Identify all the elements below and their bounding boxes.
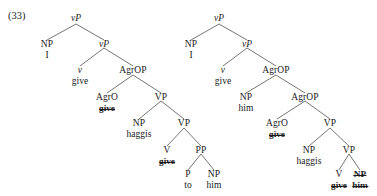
node-label-category: AgrOP (119, 66, 146, 76)
node-label-category: vP (99, 40, 109, 50)
node-t2-vp-root: vP (214, 14, 224, 24)
node-label-lexical-struck: give (331, 181, 347, 191)
node-label-lexical: him (239, 104, 254, 114)
node-label-lexical-struck: give (266, 130, 288, 140)
node-label-category: NP (297, 146, 322, 156)
node-t2-agrop-low: AgrOP (291, 93, 318, 103)
node-t2-np-him-spec: NP him (239, 93, 254, 114)
node-t1-p: P to (184, 170, 191, 191)
node-t1-agrop: AgrOP (119, 66, 146, 76)
node-label-category: NP (41, 40, 53, 50)
syntax-tree-figure: (33) vP NP I vP (0, 0, 377, 196)
node-label-category: NP (127, 119, 152, 129)
node-label-category: VP (324, 119, 336, 129)
node-t2-vp-bar: vP (242, 40, 252, 50)
node-t1-agro: AgrO give (96, 93, 118, 114)
node-t1-np-haggis: NP haggis (127, 119, 152, 140)
node-label-category: AgrOP (291, 93, 318, 103)
node-t2-agro: AgrO give (266, 119, 288, 140)
node-t1-vp-high: VP (155, 93, 167, 103)
node-label-lexical: I (41, 51, 53, 61)
node-label-category: v (72, 66, 88, 76)
node-label-category: v (215, 66, 231, 76)
node-t2-v: V give (331, 170, 347, 191)
node-label-category: PP (196, 146, 207, 156)
node-label-category: vP (214, 14, 224, 24)
node-t1-np-subject: NP I (41, 40, 53, 61)
node-t1-pp: PP (196, 146, 207, 156)
node-label-category: VP (343, 146, 355, 156)
node-label-lexical-struck: give (96, 104, 118, 114)
node-label-lexical: I (185, 51, 197, 61)
node-label-category: AgrO (266, 119, 288, 129)
node-label-lexical: him (207, 181, 222, 191)
node-t1-vp-bar: vP (99, 40, 109, 50)
node-label-lexical: haggis (127, 130, 152, 140)
node-t1-v-head: v give (72, 66, 88, 87)
node-label-lexical-struck: give (159, 157, 175, 167)
node-label-category: VP (155, 93, 167, 103)
example-number: (33) (8, 10, 26, 21)
node-label-category: NP (185, 40, 197, 50)
node-label-category: AgrOP (262, 66, 289, 76)
node-t1-vp-low: VP (178, 119, 190, 129)
node-t1-v: V give (159, 146, 175, 167)
node-label-category: vP (242, 40, 252, 50)
node-label-category: vP (71, 14, 81, 24)
node-label-lexical: to (184, 181, 191, 191)
node-label-category: NP (207, 170, 222, 180)
node-label-category: P (184, 170, 191, 180)
node-t2-agrop-high: AgrOP (262, 66, 289, 76)
node-label-category-struck: NP (352, 170, 367, 180)
node-t1-vp-root: vP (71, 14, 81, 24)
node-label-category: NP (239, 93, 254, 103)
node-label-category: VP (178, 119, 190, 129)
node-t2-np-haggis: NP haggis (297, 146, 322, 167)
node-t2-np-trace: NP him (352, 170, 367, 191)
node-label-category: V (331, 170, 347, 180)
node-label-lexical-struck: him (352, 181, 367, 191)
node-label-category: AgrO (96, 93, 118, 103)
node-t1-np-him: NP him (207, 170, 222, 191)
node-label-lexical: haggis (297, 157, 322, 167)
node-label-lexical: give (72, 77, 88, 87)
node-label-lexical: give (215, 77, 231, 87)
node-label-category: V (159, 146, 175, 156)
node-t2-vp-low: VP (343, 146, 355, 156)
node-t2-v-head: v give (215, 66, 231, 87)
node-t2-vp-high: VP (324, 119, 336, 129)
node-t2-np-subject: NP I (185, 40, 197, 61)
